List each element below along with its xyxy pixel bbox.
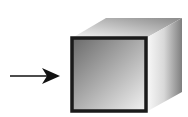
arrow-icon: [10, 68, 60, 84]
cube-front-face: [72, 38, 146, 111]
diagram-canvas: [0, 0, 188, 117]
cube: [72, 18, 182, 112]
